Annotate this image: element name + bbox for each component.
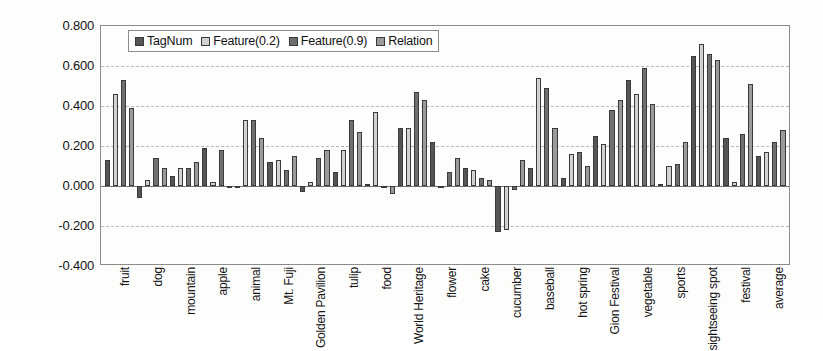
bar (707, 54, 712, 186)
x-axis-tick-label: sports (674, 267, 688, 298)
bar (455, 158, 460, 186)
bar (487, 180, 492, 186)
x-axis-label-slot: Mt. Fuji (265, 265, 298, 320)
bar (756, 156, 761, 186)
bar-group (657, 26, 690, 264)
bar (675, 164, 680, 186)
x-axis-label-slot: vegetable (625, 265, 658, 320)
x-axis-label-slot: cucumber (494, 265, 527, 320)
x-axis-label-slot: hot spring (559, 265, 592, 320)
legend-label: Relation (388, 34, 432, 48)
x-axis-tick-label: Gion Festival (608, 267, 622, 334)
bar (145, 180, 150, 186)
bar (243, 120, 248, 186)
bar (202, 148, 207, 186)
x-axis-label-slot: flower (429, 265, 462, 320)
plot-area (100, 25, 790, 265)
bar (284, 170, 289, 186)
x-axis-tick-label: animal (249, 267, 263, 301)
bar-group (364, 26, 397, 264)
x-axis-label-slot: mountain (167, 265, 200, 320)
x-axis-label-slot: cake (461, 265, 494, 320)
x-axis-tick-label: fruit (118, 267, 132, 286)
bar (170, 176, 175, 186)
bar-group (103, 26, 136, 264)
bar (406, 128, 411, 186)
x-axis-label-slot: baseball (527, 265, 560, 320)
bar (471, 170, 476, 186)
x-axis-category-labels: fruitdogmountainappleanimalMt. FujiGolde… (100, 265, 790, 320)
bar (292, 156, 297, 186)
legend-swatch-icon (376, 37, 385, 46)
bar-group (494, 26, 527, 264)
bar (780, 130, 785, 186)
x-axis-tick-label: average (772, 267, 786, 309)
bar (748, 84, 753, 186)
x-axis-tick-label: baseball (543, 267, 557, 310)
bar (650, 104, 655, 186)
bar (227, 186, 232, 188)
bar (512, 186, 517, 190)
legend-swatch-icon (135, 37, 144, 46)
legend-item: Relation (376, 34, 432, 48)
x-axis-tick-label: festival (739, 267, 753, 303)
bar (520, 160, 525, 186)
bar-group (592, 26, 625, 264)
x-axis-tick-label: hot spring (576, 267, 590, 318)
x-axis-tick-label: food (380, 267, 394, 290)
x-axis-tick-label: mountain (184, 267, 198, 315)
bar-group (233, 26, 266, 264)
y-axis-tick-label: 0.600 (42, 58, 94, 73)
x-axis-tick-label: dog (151, 267, 165, 286)
bar (691, 56, 696, 186)
bar (381, 186, 386, 188)
bar (422, 100, 427, 186)
bar (732, 182, 737, 186)
legend-label: Feature(0.2) (213, 34, 279, 48)
x-axis-label-slot: average (755, 265, 788, 320)
bar-group (461, 26, 494, 264)
bar (398, 128, 403, 186)
x-axis-label-slot: apple (200, 265, 233, 320)
x-axis-tick-label: sightseeing spot (706, 267, 720, 351)
x-axis-label-slot: tulip (331, 265, 364, 320)
x-axis-label-slot: fruit (102, 265, 135, 320)
bar (308, 182, 313, 186)
bar (504, 186, 509, 230)
bar (715, 60, 720, 186)
x-axis-label-slot: animal (233, 265, 266, 320)
bar-group (755, 26, 788, 264)
y-axis-tick-label: -0.400 (42, 258, 94, 273)
y-axis-tick-label: 0.800 (42, 18, 94, 33)
bar (723, 138, 728, 186)
bar-group (266, 26, 299, 264)
legend-label: TagNum (147, 34, 192, 48)
bar-group (689, 26, 722, 264)
bar-group (201, 26, 234, 264)
bar (601, 144, 606, 186)
bar (683, 142, 688, 186)
bar-group (168, 26, 201, 264)
bar (593, 136, 598, 186)
x-axis-tick-label: apple (216, 267, 230, 295)
y-axis-tick-labels: 0.8000.6000.4000.2000.000-0.200-0.400 (42, 0, 94, 320)
bar (194, 162, 199, 186)
bar (577, 152, 582, 186)
legend-item: Feature(0.9) (289, 34, 367, 48)
x-axis-label-slot: dog (135, 265, 168, 320)
bar (162, 168, 167, 186)
bar (259, 138, 264, 186)
x-axis-label-slot: sports (657, 265, 690, 320)
bar (642, 68, 647, 186)
bar (764, 152, 769, 186)
bar-group (396, 26, 429, 264)
bar (153, 158, 158, 186)
bar (634, 94, 639, 186)
bar (552, 128, 557, 186)
bar-group (298, 26, 331, 264)
y-axis-tick-label: 0.200 (42, 138, 94, 153)
bar (658, 184, 663, 186)
bar (479, 178, 484, 186)
bar (772, 142, 777, 186)
bar-group (527, 26, 560, 264)
